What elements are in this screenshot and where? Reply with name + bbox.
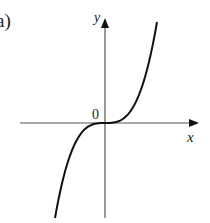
graph bbox=[0, 0, 210, 223]
cubic-curve bbox=[55, 22, 157, 218]
y-axis-arrow-icon bbox=[101, 18, 109, 28]
x-axis-arrow-icon bbox=[189, 119, 199, 127]
